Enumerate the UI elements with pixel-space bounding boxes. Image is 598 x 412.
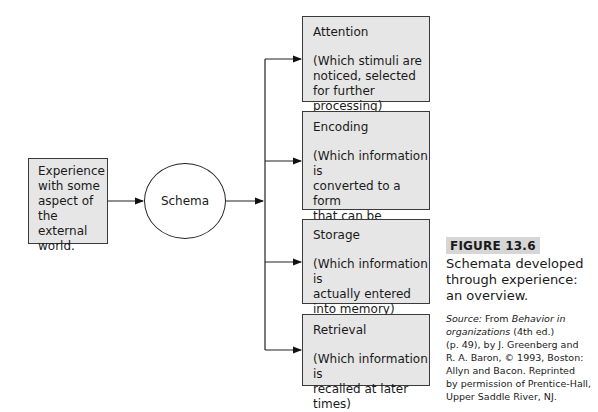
experience-box: Experience with some aspect of the exter… (28, 158, 108, 244)
stage-description: (Which information is recalled at later … (313, 352, 429, 412)
schema-node: Schema (144, 163, 226, 239)
stage-attention: Attention (Which stimuli are noticed, se… (302, 16, 430, 102)
source-from: From (482, 313, 512, 324)
stage-description: (Which information is actually entered i… (313, 257, 429, 317)
stage-title: Storage (313, 228, 429, 243)
source-rest: (4th ed.) (p. 49), by J. Greenberg and R… (446, 326, 591, 402)
figure-source: Source: From Behavior in organizations (… (446, 312, 596, 403)
stage-title: Encoding (313, 120, 429, 135)
figure-title: Schemata developed through experience: a… (446, 256, 596, 304)
schema-label: Schema (161, 194, 209, 208)
stage-storage: Storage (Which information is actually e… (302, 219, 430, 304)
figure-caption: FIGURE 13.6 Schemata developed through e… (446, 235, 596, 403)
stage-retrieval: Retrieval (Which information is recalled… (302, 314, 430, 386)
figure-label: FIGURE 13.6 (446, 237, 540, 254)
stage-description: (Which stimuli are noticed, selected for… (313, 54, 429, 114)
source-prefix: Source: (446, 313, 482, 324)
stage-encoding: Encoding (Which information is converted… (302, 111, 430, 210)
stage-title: Attention (313, 25, 429, 40)
stage-title: Retrieval (313, 323, 429, 338)
